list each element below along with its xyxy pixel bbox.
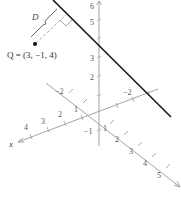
distance-label: D — [31, 12, 39, 22]
3d-distance-diagram: 6 5 3 2 −1 4 3 2 1 −2 x 1 2 3 4 5 −2 D Q… — [0, 0, 181, 197]
x-axis-label: x — [8, 139, 13, 149]
y-tick-3: 3 — [129, 147, 133, 156]
x-tick-3: 3 — [41, 117, 45, 126]
y-tick-5: 5 — [157, 171, 161, 180]
right-angle-marker — [60, 20, 72, 26]
y-tick-1: 1 — [103, 124, 107, 133]
x-tick-4: 4 — [24, 123, 28, 132]
z-tick-6: 6 — [90, 2, 94, 11]
y-tick-4: 4 — [143, 159, 147, 168]
x-axis-labels: 4 3 2 1 −2 x — [8, 88, 132, 149]
z-tick-2: 2 — [90, 73, 94, 82]
y-tick-2: 2 — [115, 135, 119, 144]
y-axis-labels: 1 2 3 4 5 −2 — [55, 87, 161, 180]
x-tick-neg2: −2 — [123, 88, 132, 97]
point-q-label: Q = (3, −1, 4) — [7, 50, 57, 60]
x-tick-1: 1 — [74, 105, 78, 114]
perpendicular-segment — [36, 14, 67, 43]
z-tick-5: 5 — [90, 18, 94, 27]
x-tick-2: 2 — [58, 110, 62, 119]
given-line — [53, 0, 171, 117]
point-q — [33, 42, 37, 46]
y-tick-neg2: −2 — [55, 87, 64, 96]
z-tick-3: 3 — [90, 54, 94, 63]
z-tick-neg1: −1 — [84, 127, 93, 136]
